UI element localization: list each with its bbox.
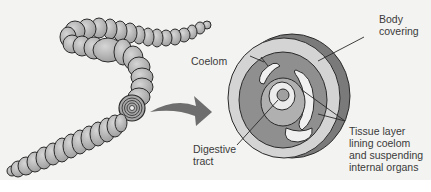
cross-section-disc bbox=[228, 34, 350, 158]
digestive-tract-label: Digestive tract bbox=[193, 143, 236, 167]
arrow-icon bbox=[150, 96, 212, 126]
digestive-tract bbox=[277, 89, 289, 101]
diagram-canvas: Coelom Body covering Digestive tract Tis… bbox=[0, 0, 431, 192]
body-covering-label: Body covering bbox=[379, 13, 419, 37]
coelom-label: Coelom bbox=[191, 55, 227, 67]
worm-upper-body bbox=[60, 18, 211, 106]
tissue-layer-label: Tissue layer lining coelom and suspendin… bbox=[349, 125, 423, 173]
worm-lower-body bbox=[7, 114, 127, 177]
